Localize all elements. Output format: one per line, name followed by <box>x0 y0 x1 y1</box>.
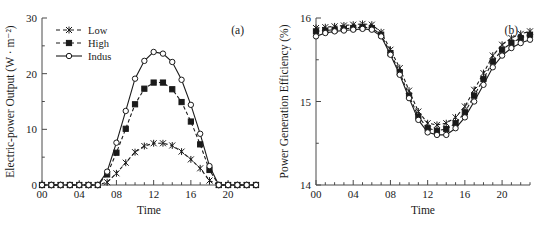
data-point-star <box>113 170 119 177</box>
data-point-circle <box>471 99 476 104</box>
star-glyph <box>197 165 203 172</box>
data-point-square <box>160 80 165 85</box>
data-point-circle <box>95 182 100 187</box>
data-point-circle <box>425 130 430 135</box>
data-point-circle <box>160 51 165 56</box>
y-axis-title: Electric-power Output (W · m⁻²) <box>4 25 17 178</box>
data-point-circle <box>123 108 128 113</box>
x-axis-title: Time <box>137 204 161 216</box>
star-glyph <box>179 148 185 155</box>
data-point-circle <box>114 140 119 145</box>
star-glyph <box>462 103 468 110</box>
data-point-circle <box>351 27 356 32</box>
data-point-square <box>114 150 119 155</box>
series-indus <box>39 49 258 187</box>
legend: LowHighIndus <box>56 25 111 62</box>
y-tick-label: 10 <box>26 123 38 135</box>
data-point-square <box>499 47 504 52</box>
data-point-circle <box>313 34 318 39</box>
data-point-circle <box>369 27 374 32</box>
x-tick-label: 00 <box>37 188 49 200</box>
data-point-circle <box>481 82 486 87</box>
y-tick-label: 16 <box>300 12 312 24</box>
x-tick-label: 00 <box>311 188 323 200</box>
data-point-circle <box>216 182 221 187</box>
data-point-star <box>179 148 185 155</box>
data-point-circle <box>444 132 449 137</box>
data-point-star <box>188 156 194 163</box>
data-point-circle <box>434 132 439 137</box>
data-point-star <box>206 177 212 184</box>
star-glyph <box>141 143 147 150</box>
legend-label: Low <box>88 25 108 36</box>
data-point-circle <box>67 182 72 187</box>
data-point-circle <box>151 49 156 54</box>
star-glyph <box>123 159 129 166</box>
data-point-square <box>132 102 137 107</box>
data-point-circle <box>397 72 402 77</box>
x-tick-label: 08 <box>385 188 397 200</box>
data-point-circle <box>132 76 137 81</box>
data-point-circle <box>142 58 147 63</box>
axis-frame <box>42 18 256 185</box>
data-point-square <box>188 119 193 124</box>
data-point-square <box>66 40 71 45</box>
data-point-circle <box>499 53 504 58</box>
data-point-star <box>141 143 147 150</box>
data-point-circle <box>388 52 393 57</box>
series-low <box>313 20 533 128</box>
x-tick-label: 12 <box>148 188 159 200</box>
data-point-square <box>179 99 184 104</box>
chart-a: 000408121620Time0102030Electric-power Ou… <box>0 0 272 233</box>
data-point-circle <box>253 182 258 187</box>
data-point-circle <box>86 182 91 187</box>
x-tick-label: 20 <box>497 188 509 200</box>
data-point-star <box>104 179 110 186</box>
x-axis-title: Time <box>411 204 435 216</box>
data-point-square <box>123 126 128 131</box>
panel-tag: (b) <box>505 24 519 37</box>
data-point-circle <box>197 131 202 136</box>
x-tick-label: 20 <box>223 188 235 200</box>
data-point-circle <box>453 126 458 131</box>
star-glyph <box>471 86 477 93</box>
star-glyph <box>453 114 459 121</box>
panel-tag: (a) <box>231 24 244 37</box>
data-point-square <box>444 126 449 131</box>
data-point-circle <box>235 182 240 187</box>
data-point-circle <box>416 117 421 122</box>
x-tick-label: 16 <box>459 188 471 200</box>
data-point-star <box>471 86 477 93</box>
series-low <box>39 140 259 189</box>
star-glyph <box>188 156 194 163</box>
data-point-circle <box>527 37 532 42</box>
series-line-low <box>316 24 530 125</box>
star-glyph <box>151 140 157 147</box>
data-point-circle <box>244 182 249 187</box>
data-point-circle <box>49 182 54 187</box>
star-glyph <box>104 179 110 186</box>
data-point-circle <box>39 182 44 187</box>
y-tick-label: 30 <box>26 12 38 24</box>
data-point-star <box>462 103 468 110</box>
axis-lines <box>42 18 256 185</box>
axis-lines <box>316 18 530 185</box>
series-high <box>39 80 258 188</box>
data-point-star <box>197 165 203 172</box>
data-point-circle <box>179 77 184 82</box>
data-point-circle <box>490 65 495 70</box>
data-point-circle <box>66 53 71 58</box>
data-point-circle <box>58 182 63 187</box>
y-tick-label: 15 <box>300 96 312 108</box>
series-line-high <box>316 27 530 131</box>
data-point-circle <box>188 102 193 107</box>
y-tick-label: 14 <box>300 179 312 191</box>
y-axis: 0102030Electric-power Output (W · m⁻²) <box>4 12 47 191</box>
y-tick-label: 20 <box>26 68 38 80</box>
data-point-square <box>142 86 147 91</box>
panel-b: 000408121620Time141516Power Generation E… <box>272 0 544 233</box>
data-point-circle <box>341 28 346 33</box>
x-tick-label: 16 <box>185 188 197 200</box>
data-point-square <box>170 87 175 92</box>
data-point-star <box>151 140 157 147</box>
